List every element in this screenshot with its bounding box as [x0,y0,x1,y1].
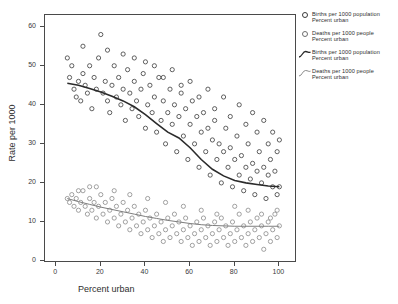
x-tick-mark [189,262,190,266]
x-tick-label: 60 [174,268,204,275]
x-tick-mark [55,262,56,266]
chart-figure: Rate per 1000 Percent urban Births per 1… [0,0,398,304]
legend-item[interactable]: Deaths per 1000 peoplePercent urban [298,67,398,82]
y-tick-label: 30 [0,139,36,146]
legend-label-line2: Percent urban [312,17,380,23]
y-tick-label: 60 [0,22,36,29]
y-tick-mark [40,26,44,27]
y-tick-mark [40,182,44,183]
legend-label-line2: Percent urban [312,74,374,80]
series-deaths [65,185,281,252]
x-tick-mark [234,262,235,266]
legend-label-line2: Percent urban [312,55,380,61]
x-tick-label: 0 [40,268,70,275]
legend-label-line2: Percent urban [312,36,374,42]
fit-curve-icon [298,48,312,58]
legend: Births per 1000 populationPercent urbanD… [298,10,398,86]
x-tick-label: 100 [263,268,293,275]
x-tick-label: 80 [219,268,249,275]
y-tick-label: 0 [0,256,36,263]
y-tick-mark [40,221,44,222]
x-tick-mark [144,262,145,266]
x-tick-label: 40 [129,268,159,275]
y-tick-mark [40,65,44,66]
open-circle-icon [298,29,312,37]
x-axis-title: Percent urban [78,284,135,294]
y-tick-label: 50 [0,61,36,68]
y-tick-label: 40 [0,100,36,107]
plot-area [44,14,296,262]
legend-item[interactable]: Births per 1000 populationPercent urban [298,48,398,63]
y-tick-label: 10 [0,217,36,224]
legend-item[interactable]: Births per 1000 populationPercent urban [298,10,398,25]
circle-glyph [302,12,308,18]
x-tick-mark [100,262,101,266]
legend-label: Births per 1000 populationPercent urban [312,10,380,24]
y-tick-mark [40,143,44,144]
circle-glyph [302,31,308,37]
legend-label: Deaths per 1000 peoplePercent urban [312,29,374,43]
fit-line-births [67,83,279,186]
open-circle-icon [298,10,312,18]
fit-curve-icon [298,67,312,77]
legend-item[interactable]: Deaths per 1000 peoplePercent urban [298,29,398,44]
y-tick-mark [40,104,44,105]
legend-label: Deaths per 1000 peoplePercent urban [312,67,374,81]
x-tick-label: 20 [85,268,115,275]
series-births [65,32,281,200]
clipped-title-stub [60,0,240,6]
legend-label: Births per 1000 populationPercent urban [312,48,380,62]
plot-canvas [45,15,295,261]
y-tick-label: 20 [0,178,36,185]
y-tick-mark [40,260,44,261]
x-tick-mark [278,262,279,266]
